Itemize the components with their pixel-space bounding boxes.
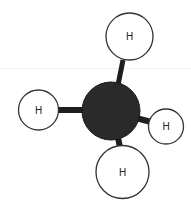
- atom-h-top-label: H: [126, 31, 133, 42]
- atom-h-bottom-label: H: [119, 167, 126, 178]
- bond-c-h-top: [118, 60, 123, 85]
- atom-carbon: [82, 82, 140, 140]
- molecule-svg: H H H H: [0, 0, 191, 202]
- methane-diagram: H H H H: [0, 0, 191, 202]
- atom-h-bottom: H: [96, 146, 149, 199]
- atom-h-left-label: H: [35, 105, 42, 116]
- atom-h-top: H: [106, 13, 153, 60]
- atom-h-right-label: H: [162, 121, 169, 132]
- atom-h-right: H: [149, 109, 184, 144]
- atom-h-left: H: [19, 90, 59, 130]
